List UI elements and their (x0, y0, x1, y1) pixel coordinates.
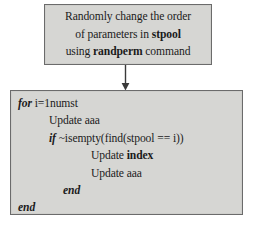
code-update-index-prefix: Update (91, 149, 127, 162)
code-line-update-index: Update index (11, 147, 242, 164)
code-update-aaa-1-text: Update aaa (49, 114, 100, 127)
process-text-randperm: randperm (93, 45, 142, 58)
process-box-randomize[interactable]: Randomly change the order of parameters … (44, 4, 212, 65)
keyword-end-outer: end (18, 201, 35, 214)
keyword-if: if (49, 132, 56, 145)
code-line-end-inner: end (11, 182, 242, 199)
code-update-aaa-2-text: Update aaa (91, 167, 142, 180)
arrow-down-icon (120, 65, 131, 91)
process-box-line-1: Randomly change the order (49, 8, 207, 26)
process-text-line2-prefix: of parameters in (75, 28, 152, 41)
process-text-line3-prefix: using (66, 45, 93, 58)
code-line-for: for i=1numst (11, 95, 242, 112)
code-line-if: if ~isempty(find(stpool == i)) (11, 130, 242, 147)
code-line-end-outer: end (11, 199, 242, 216)
process-text-line1: Randomly change the order (65, 10, 191, 23)
code-for-range: i=1numst (32, 97, 78, 110)
process-box-line-3: using randperm command (49, 43, 207, 61)
code-box-loop[interactable]: for i=1numst Update aaa if ~isempty(find… (10, 90, 243, 215)
code-update-index-variable: index (127, 149, 154, 162)
keyword-for: for (18, 97, 32, 110)
code-line-update-aaa-2: Update aaa (11, 165, 242, 182)
code-if-condition: ~isempty(find(stpool == i)) (56, 132, 184, 145)
process-text-line3-suffix: command (143, 45, 191, 58)
process-box-line-2: of parameters in stpool (49, 26, 207, 44)
code-line-update-aaa-1: Update aaa (11, 112, 242, 129)
process-text-stpool: stpool (152, 28, 181, 41)
keyword-end-inner: end (63, 184, 80, 197)
flowchart-diagram: Randomly change the order of parameters … (0, 0, 256, 229)
